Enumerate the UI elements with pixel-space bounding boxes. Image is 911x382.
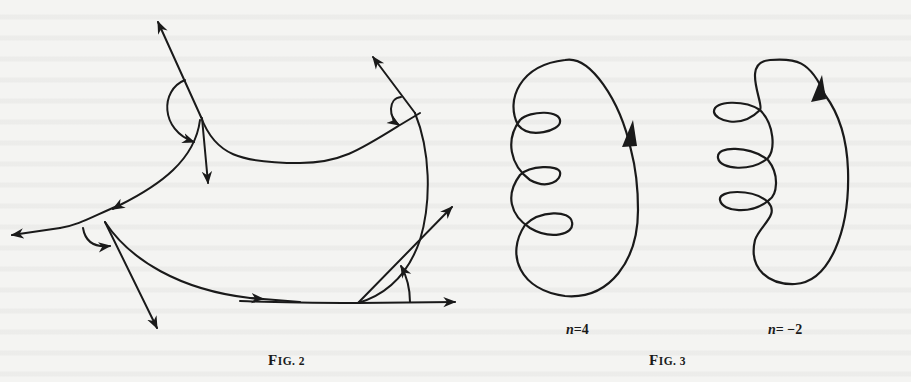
tangent-arrow-upper-right [373, 57, 415, 113]
label-n4-value: =4 [574, 322, 589, 337]
figure-3-n-minus-2-arrow [811, 75, 826, 102]
figure-2-caption-rest: IG. 2 [278, 355, 305, 367]
curve-segment-left [60, 120, 200, 228]
tangent-arrow-left [12, 228, 60, 235]
page: n=4 n= −2 FIG. 2 FIG. 3 [0, 0, 911, 382]
angle-arc-lower-left [83, 228, 110, 246]
curve-segment-right [358, 113, 428, 303]
figure-3-caption-rest: IG. 3 [659, 355, 686, 367]
curve-lower-arrow [250, 298, 263, 299]
angle-arc-lower-right [401, 266, 410, 302]
angle-arc-top-left [167, 80, 194, 142]
figure-3-caption: FIG. 3 [649, 352, 686, 369]
figure-3-caption-prefix: F [649, 352, 659, 368]
label-n4: n=4 [566, 322, 589, 338]
curve-segment-upper [201, 113, 420, 163]
label-n-minus-2-value: = −2 [776, 322, 802, 337]
figure-2-caption: FIG. 2 [268, 352, 305, 369]
tangent-arrow-upper-left [158, 22, 201, 117]
figure-3-curve-n-minus-2 [714, 59, 848, 284]
label-n4-var: n [566, 322, 574, 337]
label-n-minus-2-var: n [768, 322, 776, 337]
curve-segment-lower [105, 222, 300, 302]
angle-arc-upper-right [391, 97, 401, 125]
figure-2-caption-prefix: F [268, 352, 278, 368]
down-arrow-vertex-lower [105, 222, 157, 328]
tangent-arrow-lower-right [358, 207, 452, 303]
figure-3-curve-n4 [511, 60, 638, 297]
horizontal-segment [240, 301, 455, 303]
label-n-minus-2: n= −2 [768, 322, 802, 338]
